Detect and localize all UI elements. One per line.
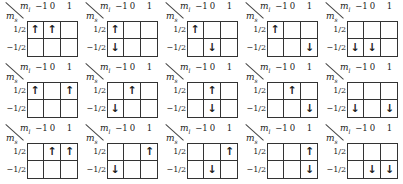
microstate-panel: mlms−1011/2−1/2↑↓	[240, 122, 320, 183]
spin-up-arrow-icon: ↑	[65, 146, 74, 157]
orbital-cell	[61, 21, 78, 39]
orbital-grid: ↑↓	[267, 82, 318, 118]
column-header: 0	[124, 123, 141, 133]
orbital-cell	[44, 100, 61, 118]
orbital-cell	[107, 143, 124, 161]
spin-up-arrow-icon: ↑	[207, 85, 216, 96]
column-header: 0	[364, 1, 381, 11]
microstate-panel: mlms−1011/2−1/2↓↓	[320, 0, 400, 61]
spin-up-arrow-icon: ↑	[225, 146, 234, 157]
spin-up-arrow-icon: ↑	[127, 85, 136, 96]
spin-down-arrow-icon: ↓	[207, 103, 216, 114]
orbital-cell	[204, 143, 221, 161]
orbital-cell	[267, 39, 284, 57]
orbital-cell	[267, 100, 284, 118]
orbital-cell	[347, 143, 364, 161]
microstate-panel: mlms−1011/2−1/2↑↓	[240, 0, 320, 61]
spin-down-arrow-icon: ↓	[385, 164, 394, 175]
orbital-cell: ↑	[44, 143, 61, 161]
orbital-grid: ↑↓	[107, 82, 158, 118]
orbital-grid: ↑↓	[187, 82, 238, 118]
orbital-cell	[221, 39, 238, 57]
orbital-grid: ↑↑	[27, 143, 78, 179]
orbital-cell: ↓	[381, 100, 398, 118]
column-header: 0	[364, 123, 381, 133]
row-header: −1/2	[160, 104, 186, 113]
orbital-cell: ↑	[204, 82, 221, 100]
orbital-cell	[44, 39, 61, 57]
microstate-panel: mlms−1011/2−1/2↓↓	[320, 122, 400, 183]
orbital-cell: ↑	[301, 143, 318, 161]
orbital-cell	[124, 100, 141, 118]
column-header: 1	[381, 62, 398, 72]
ms-axis-label: ms	[6, 11, 18, 23]
orbital-cell: ↓	[301, 161, 318, 179]
spin-down-arrow-icon: ↓	[305, 164, 314, 175]
ml-axis-label: ml	[180, 1, 190, 13]
orbital-cell	[141, 82, 158, 100]
ms-axis-label: ms	[6, 72, 18, 84]
orbital-cell: ↑	[44, 21, 61, 39]
column-header: 1	[61, 62, 78, 72]
orbital-grid: ↓↓	[347, 82, 398, 118]
row-header: 1/2	[240, 147, 266, 156]
orbital-cell: ↓	[107, 100, 124, 118]
orbital-cell	[221, 82, 238, 100]
ms-axis-label: ms	[326, 133, 338, 145]
orbital-cell	[44, 161, 61, 179]
microstate-panel: mlms−1011/2−1/2↑↓	[160, 0, 240, 61]
row-header: −1/2	[80, 165, 106, 174]
orbital-cell	[141, 100, 158, 118]
orbital-cell	[284, 161, 301, 179]
ms-axis-label: ms	[166, 133, 178, 145]
row-header: −1/2	[320, 104, 346, 113]
orbital-cell: ↓	[301, 100, 318, 118]
microstate-panel: mlms−1011/2−1/2↑↑	[0, 122, 80, 183]
row-header: 1/2	[320, 25, 346, 34]
orbital-grid: ↑↓	[107, 21, 158, 57]
ms-axis-label: ms	[166, 11, 178, 23]
spin-up-arrow-icon: ↑	[287, 85, 296, 96]
column-header: 0	[204, 1, 221, 11]
orbital-cell	[124, 21, 141, 39]
ml-axis-label: ml	[100, 1, 110, 13]
row-header: 1/2	[0, 86, 26, 95]
column-header: 1	[381, 1, 398, 11]
row-header: −1/2	[240, 104, 266, 113]
row-header: −1/2	[160, 43, 186, 52]
orbital-cell	[267, 143, 284, 161]
spin-up-arrow-icon: ↑	[305, 146, 314, 157]
column-header: 0	[284, 123, 301, 133]
microstate-panel: mlms−1011/2−1/2↑↓	[240, 61, 320, 122]
column-header: 0	[44, 62, 61, 72]
row-header: −1/2	[80, 104, 106, 113]
spin-down-arrow-icon: ↓	[350, 42, 359, 53]
column-header: 0	[44, 123, 61, 133]
row-header: 1/2	[160, 25, 186, 34]
row-header: 1/2	[320, 86, 346, 95]
ml-axis-label: ml	[260, 123, 270, 135]
spin-down-arrow-icon: ↓	[385, 103, 394, 114]
orbital-cell: ↑	[187, 21, 204, 39]
spin-down-arrow-icon: ↓	[305, 103, 314, 114]
ms-axis-label: ms	[86, 133, 98, 145]
orbital-cell: ↓	[364, 39, 381, 57]
ms-axis-label: ms	[166, 72, 178, 84]
orbital-cell	[221, 21, 238, 39]
orbital-cell	[27, 39, 44, 57]
column-header: 1	[301, 123, 318, 133]
orbital-cell: ↑	[124, 82, 141, 100]
ml-axis-label: ml	[100, 62, 110, 74]
orbital-cell: ↑	[141, 143, 158, 161]
row-header: 1/2	[80, 86, 106, 95]
orbital-cell: ↓	[107, 39, 124, 57]
orbital-cell	[221, 161, 238, 179]
ms-axis-label: ms	[246, 133, 258, 145]
orbital-cell: ↓	[204, 100, 221, 118]
orbital-grid: ↑↑	[27, 21, 78, 57]
row-header: 1/2	[160, 86, 186, 95]
row-header: −1/2	[0, 104, 26, 113]
orbital-cell	[364, 143, 381, 161]
column-header: 0	[284, 62, 301, 72]
orbital-cell	[301, 82, 318, 100]
